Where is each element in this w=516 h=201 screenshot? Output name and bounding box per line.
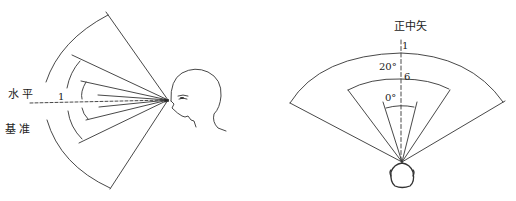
middle-lower-ray [79, 100, 168, 143]
inner-lower-ray [86, 100, 168, 120]
top-view-diagram [290, 40, 505, 188]
head-top-icon [391, 163, 414, 188]
reference-label: 基 准 [5, 124, 31, 135]
ears-icon [390, 170, 414, 176]
inner-right-ray [402, 102, 417, 162]
outer-left-ray [290, 103, 402, 162]
midsagittal-label: 正中矢 [394, 21, 427, 32]
middle-arc [348, 79, 449, 90]
side-line-number: 1 [58, 92, 64, 102]
outer-right-ray [402, 101, 505, 162]
diagram-drawing [0, 0, 516, 201]
inner-angle-label: 0° [385, 93, 396, 103]
middle-arc-lower [68, 111, 82, 139]
outer-lower-ray [110, 100, 168, 189]
middle-upper-ray [72, 55, 168, 100]
middle-right-ray [402, 90, 450, 162]
middle-line-number: 6 [404, 72, 410, 82]
inner-arc [386, 106, 414, 108]
horizontal-label: 水 平 [8, 89, 34, 100]
innermost-lower-ray [99, 100, 168, 107]
head-profile-icon [171, 69, 226, 131]
middle-arc-upper [67, 61, 80, 88]
visual-field-diagram: 水 平 基 准 1 正中矢 1 6 20° 0° [0, 0, 516, 201]
pupil-icon [180, 97, 184, 99]
outer-arc-lower [47, 120, 110, 188]
outer-angle-label: 20° [379, 62, 397, 72]
outer-line-number: 1 [402, 41, 408, 51]
face-profile-icon [171, 101, 196, 127]
outer-arc-upper [46, 15, 108, 82]
outer-upper-ray [106, 12, 168, 100]
inner-arc [82, 82, 89, 119]
